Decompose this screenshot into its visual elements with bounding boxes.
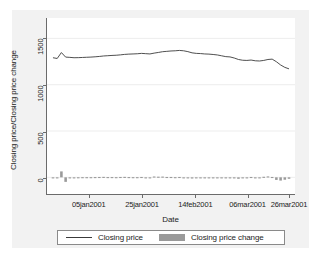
x-tick-mark: [142, 195, 143, 198]
x-tick-mark: [195, 195, 196, 198]
y-tick-label: 1500: [36, 39, 45, 59]
chart-legend: Closing price Closing price change: [57, 230, 285, 245]
x-axis-title: Date: [46, 215, 295, 224]
legend-label-closing-price: Closing price: [98, 233, 143, 242]
bar-series-closing-price-change: [52, 171, 291, 181]
y-tick-label: 500: [36, 132, 45, 152]
plot-canvas: [47, 18, 295, 194]
y-axis-title: Closing price/Closing price change: [9, 30, 18, 190]
x-tick-label: 14feb2001: [178, 200, 212, 209]
legend-item-closing-price: Closing price: [66, 231, 143, 244]
x-tick-label: 05jan2001: [72, 200, 106, 209]
x-tick-label: 06mar2001: [229, 200, 266, 209]
x-tick-label: 26mar2001: [271, 200, 308, 209]
legend-label-closing-price-change: Closing price change: [191, 233, 264, 242]
x-tick-mark: [89, 195, 90, 198]
legend-swatch-icon: [159, 234, 185, 241]
gridlines: [47, 38, 295, 177]
legend-line-icon: [66, 237, 92, 238]
chart-figure: Closing price/Closing price change 05001…: [12, 10, 309, 248]
plot-area: [46, 18, 295, 195]
y-tick-label: 0: [36, 179, 45, 199]
x-tick-mark: [289, 195, 290, 198]
x-tick-mark: [248, 195, 249, 198]
x-tick-label: 25jan2001: [125, 200, 159, 209]
y-tick-label: 1000: [36, 86, 45, 106]
legend-item-closing-price-change: Closing price change: [159, 231, 264, 244]
line-series-closing-price: [53, 50, 289, 68]
